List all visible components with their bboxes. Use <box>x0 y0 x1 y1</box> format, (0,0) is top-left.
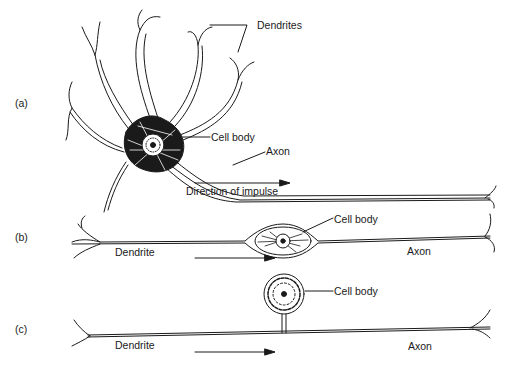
panel-label-b: (b) <box>15 232 28 243</box>
axon-label-b: Axon <box>407 246 431 257</box>
cell-body-label-a: Cell body <box>211 132 255 143</box>
axon-label-c: Axon <box>408 341 432 352</box>
direction-of-impulse-label: Direction of impulse <box>186 186 278 197</box>
dendrites-leader-line <box>210 25 247 52</box>
panel-label-a: (a) <box>15 98 28 109</box>
unipolar-neuron <box>72 274 490 346</box>
cell-body-leader-line-b <box>303 218 333 232</box>
axon-label-a: Axon <box>266 146 290 157</box>
dendrites-label: Dendrites <box>257 20 302 31</box>
panel-label-c: (c) <box>15 324 27 335</box>
dendrite-label-b: Dendrite <box>115 247 155 258</box>
cell-body-label-b: Cell body <box>334 214 378 225</box>
cell-body-label-c: Cell body <box>334 286 378 297</box>
dendrite-label-c: Dendrite <box>115 340 155 351</box>
axon-leader-line <box>233 152 265 165</box>
